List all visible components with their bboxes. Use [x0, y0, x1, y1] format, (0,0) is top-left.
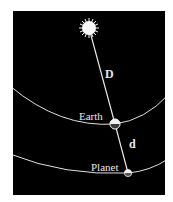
distance-label-D: D [105, 67, 114, 81]
earth-label: Earth [79, 110, 103, 122]
sun-icon [79, 18, 99, 38]
distance-label-d: d [129, 137, 136, 151]
diagram-panel [13, 11, 165, 195]
planet-icon [124, 169, 131, 176]
orbital-distance-diagram: Earth Planet D d [0, 0, 173, 202]
earth-icon [110, 119, 120, 129]
planet-label: Planet [91, 161, 119, 173]
